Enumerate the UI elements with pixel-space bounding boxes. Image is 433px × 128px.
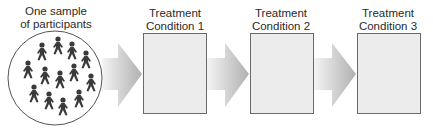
sample-label-line1: One sample — [0, 5, 112, 18]
sample-label-line2: of participants — [0, 18, 112, 31]
arrow-to-condition-3 — [314, 43, 356, 107]
condition-3-label-line1: Treatment — [353, 7, 423, 20]
participant-sample-circle — [8, 31, 102, 125]
condition-1-label-line2: Condition 1 — [140, 20, 210, 33]
condition-2-box — [250, 33, 314, 114]
condition-3-box — [357, 33, 421, 114]
condition-3-label-line2: Condition 3 — [353, 20, 423, 33]
condition-1-box — [143, 33, 207, 114]
condition-1-label: Treatment Condition 1 — [140, 7, 210, 33]
condition-3-label: Treatment Condition 3 — [353, 7, 423, 33]
condition-1-label-line1: Treatment — [140, 7, 210, 20]
arrow-to-condition-1 — [102, 43, 142, 107]
condition-2-label: Treatment Condition 2 — [246, 7, 316, 33]
condition-2-label-line2: Condition 2 — [246, 20, 316, 33]
arrow-to-condition-2 — [207, 43, 249, 107]
sample-label: One sample of participants — [0, 5, 112, 31]
condition-2-label-line1: Treatment — [246, 7, 316, 20]
